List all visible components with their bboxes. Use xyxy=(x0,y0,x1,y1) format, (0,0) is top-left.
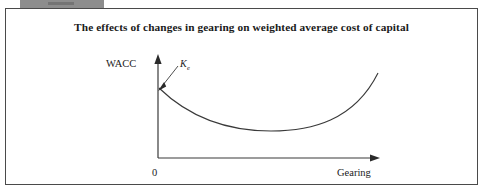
y-axis-label: WACC xyxy=(106,58,136,69)
toolbar-strip-mark xyxy=(48,2,74,5)
figure-panel: The effects of changes in gearing on wei… xyxy=(5,8,478,185)
x-axis-label: Gearing xyxy=(337,167,372,178)
y-axis xyxy=(154,54,161,158)
ke-annotation-subscript: e xyxy=(187,64,190,71)
origin-tick-label: 0 xyxy=(152,167,157,178)
wacc-gearing-chart: WACC Gearing 0 K e xyxy=(6,9,479,186)
x-axis xyxy=(158,154,380,161)
ke-annotation-label: K e xyxy=(179,58,190,71)
cropped-toolbar-strip xyxy=(20,0,104,8)
ke-leader-arrow xyxy=(158,66,178,91)
wacc-curve xyxy=(159,73,378,131)
